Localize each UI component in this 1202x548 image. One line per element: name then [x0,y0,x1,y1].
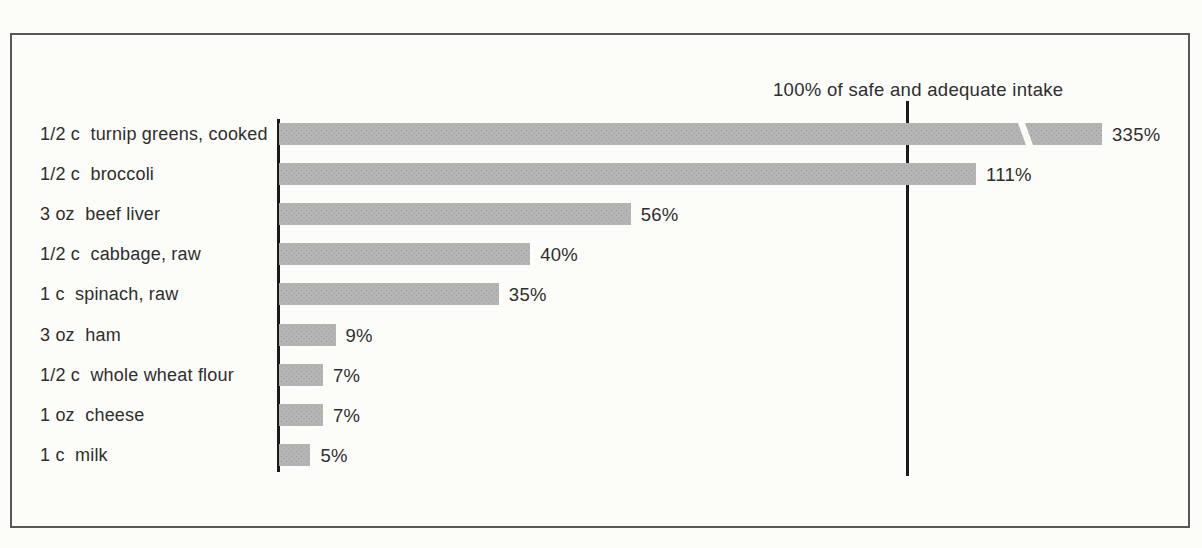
bar [279,324,336,346]
bar [279,444,310,466]
value-label: 40% [540,243,578,265]
bar [279,364,323,386]
bar-row: 1 c milk 5% [12,444,1188,466]
chart-frame: 100% of safe and adequate intake 1/2 c t… [10,33,1190,528]
category-label: 1/2 c cabbage, raw [40,243,201,265]
bar-row: 1/2 c broccoli 111% [12,163,1188,185]
category-label: 1/2 c broccoli [40,163,154,185]
category-label: 1/2 c turnip greens, cooked [40,123,268,145]
bar [279,203,631,225]
value-label: 7% [333,364,360,386]
bar-break-mark [1017,120,1034,148]
bar-row: 1/2 c turnip greens, cooked 335% [12,123,1188,145]
bar-row: 1 c spinach, raw 35% [12,283,1188,305]
bar-row: 1 oz cheese 7% [12,404,1188,426]
bar-rows: 1/2 c turnip greens, cooked 335% 1/2 c b… [12,35,1188,526]
value-label: 9% [346,324,373,346]
bar-row: 1/2 c cabbage, raw 40% [12,243,1188,265]
value-label: 5% [320,444,347,466]
value-label: 335% [1112,123,1161,145]
value-label: 7% [333,404,360,426]
bar [279,123,1102,145]
category-label: 1 c milk [40,444,108,466]
value-label: 35% [509,283,547,305]
value-label: 56% [641,203,679,225]
bar [279,404,323,426]
bar [279,243,530,265]
category-label: 1/2 c whole wheat flour [40,364,234,386]
page: { "colors": { "bar_fill": "#b5b5b5", "ba… [0,0,1202,548]
category-label: 3 oz ham [40,324,121,346]
bar-row: 3 oz beef liver 56% [12,203,1188,225]
bar [279,283,499,305]
value-label: 111% [986,163,1032,185]
category-label: 1 oz cheese [40,404,144,426]
bar [279,163,976,185]
category-label: 1 c spinach, raw [40,283,178,305]
bar-row: 1/2 c whole wheat flour 7% [12,364,1188,386]
bar-row: 3 oz ham 9% [12,324,1188,346]
category-label: 3 oz beef liver [40,203,160,225]
